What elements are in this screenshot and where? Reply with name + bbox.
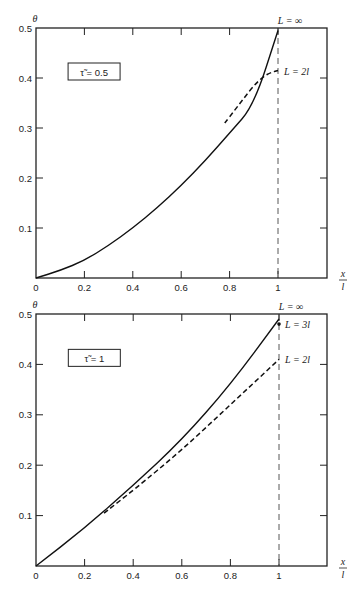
x-tick-label: 0.4 <box>127 570 140 581</box>
x-tick-label: 0.2 <box>78 282 91 293</box>
y-tick-label: 0.1 <box>19 510 32 521</box>
x-tick-label: 0.4 <box>126 282 139 293</box>
y-axis-label: θ <box>33 13 38 24</box>
x-tick-label: 1 <box>276 570 281 581</box>
series-annotation: L = 2l <box>284 354 310 365</box>
y-tick-label: 0.4 <box>19 73 32 84</box>
x-axis-label-denominator: l <box>342 569 345 580</box>
x-tick-label: 0.8 <box>223 282 236 293</box>
x-axis-label-denominator: l <box>342 281 345 292</box>
x-axis-label-numerator: x <box>340 556 346 567</box>
chart-panel-1: 00.20.40.60.810.10.20.30.40.5θxlτ̃ = 0.5… <box>19 13 347 293</box>
y-tick-label: 0.5 <box>19 309 32 320</box>
series-line <box>225 71 278 124</box>
x-tick-label: 0 <box>33 282 38 293</box>
parameter-label: τ̃ = 1 <box>84 353 104 364</box>
series-annotation: L = ∞ <box>278 301 303 312</box>
x-tick-label: 0.8 <box>224 570 237 581</box>
y-tick-label: 0.5 <box>19 23 32 34</box>
y-tick-label: 0.3 <box>19 409 32 420</box>
x-tick-label: 0 <box>33 570 38 581</box>
x-tick-label: 0.2 <box>78 570 91 581</box>
y-axis-label: θ <box>33 299 38 310</box>
x-tick-label: 1 <box>275 282 280 293</box>
x-tick-label: 0.6 <box>175 282 188 293</box>
y-tick-label: 0.1 <box>19 223 32 234</box>
x-tick-label: 0.6 <box>175 570 188 581</box>
series-point <box>277 322 281 326</box>
chart-panel-2: 00.20.40.60.810.10.20.30.40.5θxlτ̃ = 1L … <box>19 299 347 581</box>
y-tick-label: 0.3 <box>19 123 32 134</box>
parameter-label: τ̃ = 0.5 <box>80 67 108 78</box>
series-annotation: L = ∞ <box>277 15 302 26</box>
y-tick-label: 0.4 <box>19 359 32 370</box>
x-axis-label-numerator: x <box>340 268 346 279</box>
series-annotation: L = 3l <box>284 319 310 330</box>
y-tick-label: 0.2 <box>19 173 32 184</box>
series-annotation: L = 2l <box>283 66 309 77</box>
figure: 00.20.40.60.810.10.20.30.40.5θxlτ̃ = 0.5… <box>0 0 358 595</box>
y-tick-label: 0.2 <box>19 460 32 471</box>
series-line <box>104 359 279 513</box>
